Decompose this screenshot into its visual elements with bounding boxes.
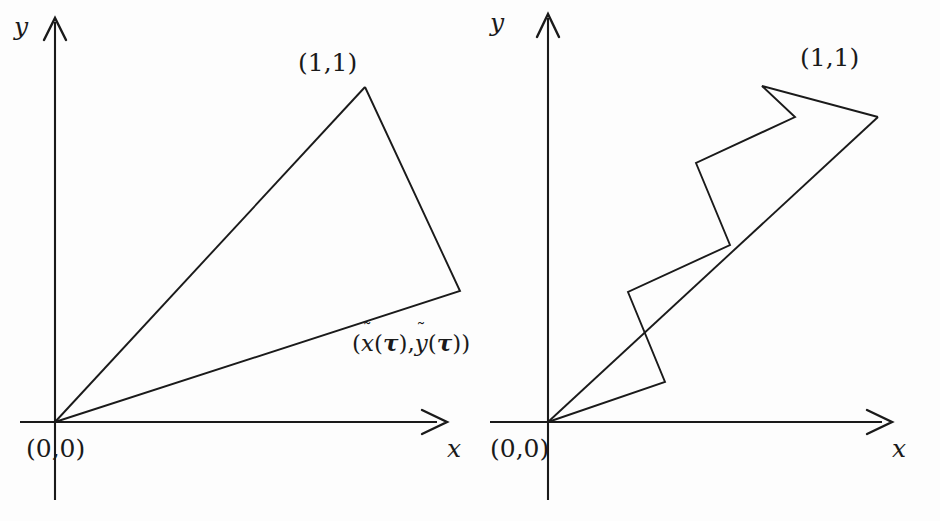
tau-symbol-x: τ: [383, 329, 398, 356]
endpoint-label: (1,1): [800, 45, 859, 70]
x-axis-label: x: [447, 436, 461, 461]
endpoint-label: (1,1): [298, 50, 357, 75]
paren-close-all: )): [452, 330, 470, 356]
mid-separator: ),: [398, 330, 414, 356]
origin-label: (0,0): [26, 436, 85, 461]
tilde-accent-x: ˜: [363, 320, 372, 339]
paren-open: (: [352, 330, 361, 356]
paren-open-tau-y: (: [428, 330, 437, 356]
origin-label: (0,0): [490, 436, 549, 461]
y-axis-label: y: [14, 14, 28, 39]
tau-symbol-y: τ: [437, 329, 452, 356]
y-axis-label: y: [490, 10, 504, 35]
y-tilde-var: ˜y: [415, 332, 428, 355]
tilde-accent-y: ˜: [416, 320, 425, 339]
x-axis-label: x: [892, 436, 906, 461]
coarse-path-panel: y x (0,0) (1,1) (˜x(τ),˜y(τ)): [0, 0, 470, 521]
paren-open-tau-x: (: [374, 330, 383, 356]
zigzag-path-panel: y x (0,0) (1,1): [470, 0, 940, 521]
x-tilde-var: ˜x: [361, 332, 374, 355]
oscillating-path-line: [548, 86, 878, 422]
curve-parametrization-label: (˜x(τ),˜y(τ)): [352, 331, 470, 355]
figure-root: y x (0,0) (1,1) (˜x(τ),˜y(τ)) y x (0,0) …: [0, 0, 940, 521]
approximation-path-line: [55, 87, 460, 422]
straight-chord-line: [548, 117, 878, 422]
